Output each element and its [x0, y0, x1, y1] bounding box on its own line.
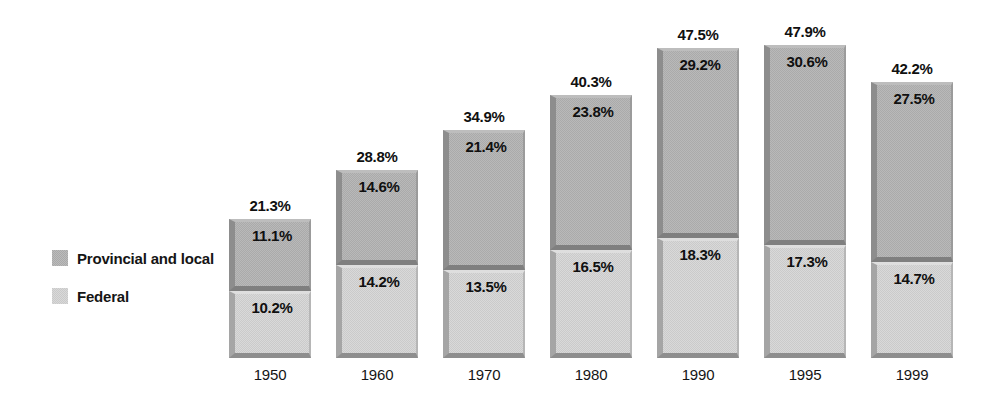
x-axis-tick-label-1950: 1950 — [229, 366, 311, 383]
segment-value-federal-1970: 13.5% — [449, 278, 523, 295]
segment-value-federal-1980: 16.5% — [556, 258, 630, 275]
segment-value-federal-1999: 14.7% — [877, 270, 951, 287]
bar-segment-federal-1960[interactable]: 14.2% — [336, 265, 418, 358]
bar-segment-federal-1990[interactable]: 18.3% — [657, 238, 739, 357]
bar-segment-provincial-1980[interactable]: 23.8% — [550, 95, 632, 250]
x-axis-tick-label-1999: 1999 — [871, 366, 953, 383]
bar-total-label-1950: 21.3% — [229, 197, 311, 214]
chart-canvas: Provincial and local Federal 21.3%11.1%1… — [0, 0, 985, 416]
segment-value-provincial-1990: 29.2% — [663, 56, 737, 73]
bar-segment-provincial-1960[interactable]: 14.6% — [336, 170, 418, 265]
bar-stack-1990[interactable]: 29.2%18.3% — [657, 48, 739, 358]
segment-value-provincial-1995: 30.6% — [770, 53, 844, 70]
bar-segment-provincial-1990[interactable]: 29.2% — [657, 48, 739, 239]
bar-segment-federal-1950[interactable]: 10.2% — [229, 291, 311, 358]
segment-value-provincial-1950: 11.1% — [235, 227, 309, 244]
segment-value-federal-1950: 10.2% — [235, 299, 309, 316]
stacked-bar-plot: 21.3%11.1%10.2%195028.8%14.6%14.2%196034… — [0, 0, 985, 416]
segment-value-federal-1995: 17.3% — [770, 253, 844, 270]
bar-segment-provincial-1970[interactable]: 21.4% — [443, 130, 525, 270]
segment-value-provincial-1999: 27.5% — [877, 90, 951, 107]
bar-segment-provincial-1995[interactable]: 30.6% — [764, 45, 846, 245]
bar-segment-provincial-1950[interactable]: 11.1% — [229, 219, 311, 291]
bar-segment-federal-1980[interactable]: 16.5% — [550, 250, 632, 358]
bar-segment-federal-1999[interactable]: 14.7% — [871, 262, 953, 358]
bar-stack-1980[interactable]: 23.8%16.5% — [550, 95, 632, 358]
bar-stack-1970[interactable]: 21.4%13.5% — [443, 130, 525, 358]
bar-segment-federal-1995[interactable]: 17.3% — [764, 245, 846, 358]
segment-value-provincial-1980: 23.8% — [556, 103, 630, 120]
bar-segment-federal-1970[interactable]: 13.5% — [443, 270, 525, 358]
bar-stack-1999[interactable]: 27.5%14.7% — [871, 82, 953, 358]
bar-total-label-1980: 40.3% — [550, 73, 632, 90]
x-axis-tick-label-1980: 1980 — [550, 366, 632, 383]
bar-stack-1995[interactable]: 30.6%17.3% — [764, 45, 846, 358]
bar-stack-1960[interactable]: 14.6%14.2% — [336, 170, 418, 358]
bar-total-label-1970: 34.9% — [443, 108, 525, 125]
bar-total-label-1999: 42.2% — [871, 60, 953, 77]
segment-value-provincial-1960: 14.6% — [342, 178, 416, 195]
x-axis-tick-label-1990: 1990 — [657, 366, 739, 383]
bar-total-label-1995: 47.9% — [764, 23, 846, 40]
bar-total-label-1960: 28.8% — [336, 148, 418, 165]
x-axis-tick-label-1995: 1995 — [764, 366, 846, 383]
bar-segment-provincial-1999[interactable]: 27.5% — [871, 82, 953, 262]
x-axis-tick-label-1960: 1960 — [336, 366, 418, 383]
x-axis-tick-label-1970: 1970 — [443, 366, 525, 383]
segment-value-provincial-1970: 21.4% — [449, 138, 523, 155]
bar-total-label-1990: 47.5% — [657, 26, 739, 43]
bar-stack-1950[interactable]: 11.1%10.2% — [229, 219, 311, 358]
segment-value-federal-1960: 14.2% — [342, 273, 416, 290]
segment-value-federal-1990: 18.3% — [663, 246, 737, 263]
